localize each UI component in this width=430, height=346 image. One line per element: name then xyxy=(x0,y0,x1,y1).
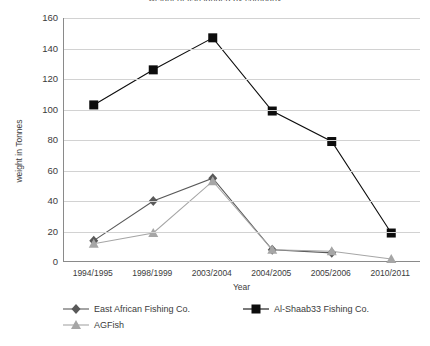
y-axis-tick-label: 60 xyxy=(18,165,58,176)
gridline xyxy=(64,232,420,233)
legend-label: Al-Shaab33 Fishing Co. xyxy=(274,304,369,314)
gridline xyxy=(64,79,420,80)
x-axis-tick-label: 2010/2011 xyxy=(370,268,410,278)
gridline xyxy=(64,110,420,111)
diamond-marker-icon xyxy=(63,303,89,315)
legend-item-agfish[interactable]: AGFish xyxy=(63,319,243,331)
chart-container: weight of fish landed by company weight … xyxy=(0,0,430,346)
diamond-marker-icon xyxy=(72,304,81,314)
y-axis-tick-label: 120 xyxy=(18,73,58,84)
gridline xyxy=(64,171,420,172)
y-axis-tick-label: 20 xyxy=(18,226,58,237)
series-line xyxy=(94,38,392,233)
chart-legend: East African Fishing Co. Al-Shaab33 Fish… xyxy=(63,303,423,335)
x-axis-tick-label: 2005/2006 xyxy=(311,268,351,278)
legend-row-1: East African Fishing Co. Al-Shaab33 Fish… xyxy=(63,303,423,315)
y-axis-tick-label: 40 xyxy=(18,195,58,206)
y-axis-tick-label: 140 xyxy=(18,43,58,54)
legend-label: East African Fishing Co. xyxy=(94,304,190,314)
x-axis-tick-label: 2004/2005 xyxy=(251,268,291,278)
gridline xyxy=(64,49,420,50)
x-axis-title: Year xyxy=(63,282,420,292)
gridline xyxy=(64,201,420,202)
series-line xyxy=(94,181,392,259)
x-axis-tick-label: 1994/1995 xyxy=(73,268,113,278)
legend-item-east-african-fishing-co[interactable]: East African Fishing Co. xyxy=(63,303,243,315)
y-axis-tick-label: 80 xyxy=(18,134,58,145)
y-axis-tick-label: 160 xyxy=(18,12,58,23)
square-marker-icon xyxy=(327,137,336,146)
gridline xyxy=(64,18,420,19)
legend-row-2: AGFish xyxy=(63,319,423,331)
square-marker-icon xyxy=(208,33,217,42)
square-marker-icon xyxy=(89,100,98,109)
series-line xyxy=(94,178,332,253)
square-marker-icon xyxy=(149,65,158,74)
square-marker-icon xyxy=(268,107,277,116)
legend-label: AGFish xyxy=(94,320,124,330)
triangle-marker-icon xyxy=(63,319,89,331)
y-axis-tick-label: 100 xyxy=(18,104,58,115)
square-marker-icon xyxy=(243,303,269,315)
square-marker-icon xyxy=(387,229,396,238)
chart-title: weight of fish landed by company xyxy=(0,0,430,1)
gridline xyxy=(64,140,420,141)
x-axis-tick-label: 2003/2004 xyxy=(192,268,232,278)
legend-item-al-shaab33-fishing-co[interactable]: Al-Shaab33 Fishing Co. xyxy=(243,303,369,315)
plot-area xyxy=(63,18,420,262)
square-marker-icon xyxy=(252,305,261,314)
x-axis-tick-label: 1998/1999 xyxy=(132,268,172,278)
y-axis-tick-label: 0 xyxy=(18,256,58,267)
